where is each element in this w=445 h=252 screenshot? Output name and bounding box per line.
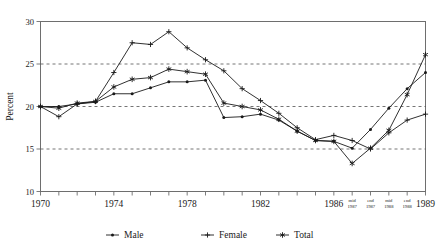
series-male-point-4-dot-marker xyxy=(112,92,115,95)
series-male-point-8-dot-marker xyxy=(186,80,189,83)
xtick-label-top: end xyxy=(404,198,411,203)
xtick-label-end-1987: end1987 xyxy=(366,198,376,209)
xtick-label-top: mid xyxy=(385,198,393,203)
xtick-label-bottom: 1988 xyxy=(384,204,394,209)
xtick-label-1974: 1974 xyxy=(104,199,123,209)
series-male-point-21-dot-marker xyxy=(424,71,427,74)
xtick-label-1978: 1978 xyxy=(178,199,197,209)
ytick-label-10: 10 xyxy=(26,187,35,197)
series-male-point-9-dot-marker xyxy=(204,79,207,82)
series-male-point-7-dot-marker xyxy=(167,80,170,83)
legend-label-female: Female xyxy=(219,230,247,240)
ytick-label-30: 30 xyxy=(26,17,35,27)
xtick-label-1970: 1970 xyxy=(31,199,50,209)
ytick-label-20: 20 xyxy=(26,102,35,112)
series-male-point-17-dot-marker xyxy=(351,147,354,150)
legend-label-male: Male xyxy=(124,230,144,240)
series-male-point-20-dot-marker xyxy=(406,87,409,90)
legend-male-dot-marker xyxy=(111,234,114,237)
chart-container: 1015202530Percent19701974197819821986mid… xyxy=(0,0,445,252)
line-chart-svg: 1015202530Percent19701974197819821986mid… xyxy=(0,0,445,252)
xtick-label-end-1988: end1988 xyxy=(403,198,413,209)
series-male-point-6-dot-marker xyxy=(149,86,152,89)
xtick-label-top: mid xyxy=(349,198,357,203)
series-male-point-11-dot-marker xyxy=(241,115,244,118)
ytick-label-15: 15 xyxy=(26,144,35,154)
chart-plot-wrapper: 1015202530Percent19701974197819821986mid… xyxy=(0,0,445,252)
series-male-point-5-dot-marker xyxy=(131,92,134,95)
xtick-label-mid-1987: mid1987 xyxy=(348,198,358,209)
series-line-total xyxy=(41,55,426,164)
series-line-female xyxy=(41,32,426,149)
series-male-point-12-dot-marker xyxy=(259,113,262,116)
y-axis-title: Percent xyxy=(5,92,15,121)
xtick-label-bottom: 1988 xyxy=(403,204,413,209)
xtick-label-top: end xyxy=(367,198,374,203)
legend-label-total: Total xyxy=(294,230,314,240)
series-line-male xyxy=(41,73,426,149)
xtick-label-mid-1988: mid1988 xyxy=(384,198,394,209)
ytick-label-25: 25 xyxy=(26,59,35,69)
xtick-label-bottom: 1987 xyxy=(348,204,358,209)
xtick-label-1986: 1986 xyxy=(324,199,343,209)
series-male-point-10-dot-marker xyxy=(222,116,225,119)
xtick-label-1989: 1989 xyxy=(416,199,435,209)
xtick-label-bottom: 1987 xyxy=(366,204,376,209)
series-male-point-19-dot-marker xyxy=(387,107,390,110)
series-male-point-18-dot-marker xyxy=(369,128,372,131)
xtick-label-1982: 1982 xyxy=(251,199,270,209)
